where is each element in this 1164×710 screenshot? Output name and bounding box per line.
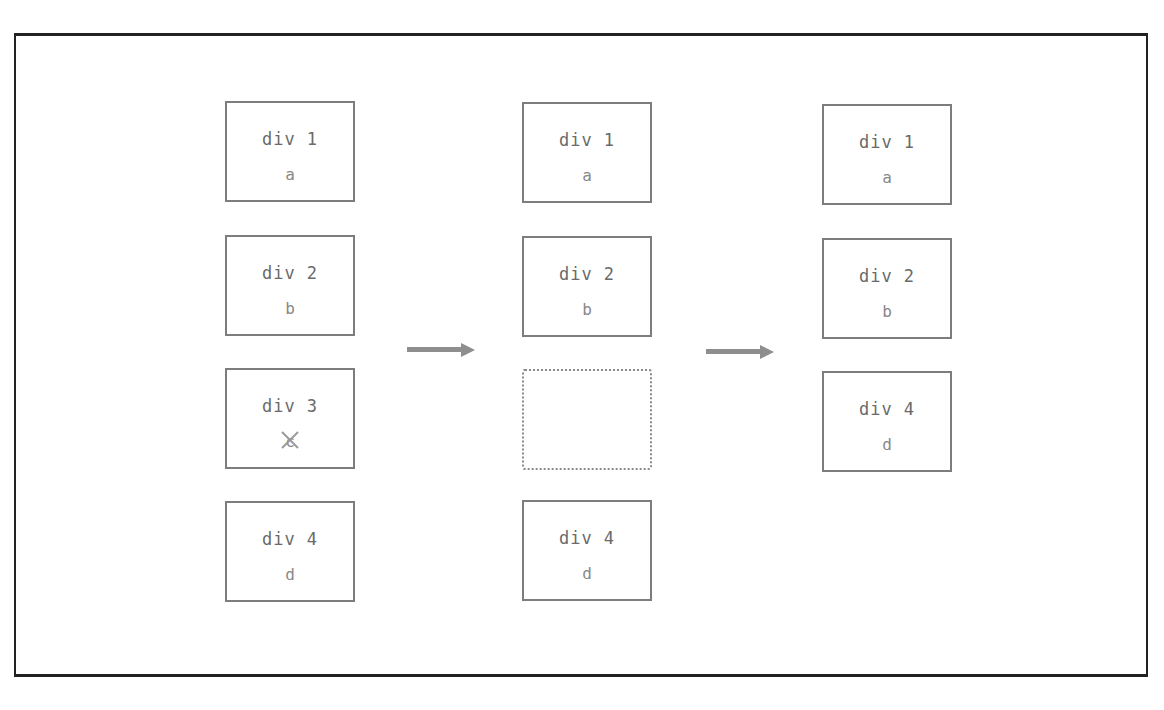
box-col3-div2: div 2 b bbox=[822, 238, 952, 339]
box-value: b bbox=[227, 299, 353, 318]
box-col1-div1: div 1 a bbox=[225, 101, 355, 202]
box-value: d bbox=[824, 435, 950, 454]
box-title: div 2 bbox=[524, 264, 650, 284]
box-col3-div1: div 1 a bbox=[822, 104, 952, 205]
box-title: div 4 bbox=[824, 399, 950, 419]
box-col2-div4: div 4 d bbox=[522, 500, 652, 601]
box-value: b bbox=[524, 300, 650, 319]
arrow-right-icon bbox=[706, 345, 774, 359]
box-value-removed: c bbox=[285, 432, 295, 451]
arrow-right-icon bbox=[407, 343, 475, 357]
box-col2-div2: div 2 b bbox=[522, 236, 652, 337]
box-title: div 4 bbox=[524, 528, 650, 548]
box-col1-div4: div 4 d bbox=[225, 501, 355, 602]
box-col2-div1: div 1 a bbox=[522, 102, 652, 203]
box-value: a bbox=[824, 168, 950, 187]
box-col1-div3: div 3 c bbox=[225, 368, 355, 469]
box-title: div 1 bbox=[524, 130, 650, 150]
box-title: div 3 bbox=[227, 396, 353, 416]
box-title: div 2 bbox=[227, 263, 353, 283]
box-value: d bbox=[524, 564, 650, 583]
box-value: d bbox=[227, 565, 353, 584]
box-col2-empty-slot bbox=[522, 369, 652, 470]
box-col3-div4: div 4 d bbox=[822, 371, 952, 472]
box-value: a bbox=[524, 166, 650, 185]
box-col1-div2: div 2 b bbox=[225, 235, 355, 336]
cross-out-icon bbox=[279, 429, 301, 451]
box-value: b bbox=[824, 302, 950, 321]
box-title: div 2 bbox=[824, 266, 950, 286]
box-title: div 1 bbox=[227, 129, 353, 149]
box-title: div 1 bbox=[824, 132, 950, 152]
box-value: a bbox=[227, 165, 353, 184]
box-title: div 4 bbox=[227, 529, 353, 549]
